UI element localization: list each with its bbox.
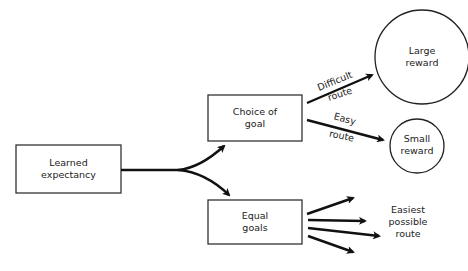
easiest-route-label-line1: Easiest bbox=[391, 204, 425, 215]
expectancy-diagram: Learned expectancy Choice of goal Diffic… bbox=[0, 0, 468, 271]
choice-of-goal-label-line2: goal bbox=[245, 118, 265, 129]
large-reward-label-line1: Large bbox=[409, 45, 436, 56]
small-reward-label-line2: reward bbox=[401, 145, 434, 156]
arrow-to-equal bbox=[178, 170, 229, 195]
choice-of-goal-node: Choice of goal bbox=[208, 95, 302, 141]
arrow-to-choice bbox=[178, 146, 224, 170]
fan-arrow-2 bbox=[308, 220, 365, 221]
easy-route-label-line2: route bbox=[328, 128, 355, 144]
easiest-route-label-line2: possible bbox=[389, 216, 428, 227]
large-reward-node: Large reward bbox=[375, 10, 468, 104]
small-reward-node: Small reward bbox=[390, 119, 444, 173]
small-reward-label-line1: Small bbox=[404, 133, 430, 144]
choice-of-goal-label-line1: Choice of bbox=[233, 106, 278, 117]
learned-expectancy-label-line1: Learned bbox=[49, 157, 87, 168]
easiest-route-label: Easiest possible route bbox=[389, 204, 428, 239]
equal-goals-label-line2: goals bbox=[242, 222, 267, 233]
branch-arrows bbox=[121, 146, 229, 195]
easy-route-label-line1: Easy bbox=[333, 110, 358, 127]
fan-arrow-1 bbox=[307, 198, 353, 214]
equal-goals-fan-arrows bbox=[307, 198, 379, 252]
easiest-route-label-line3: route bbox=[395, 228, 420, 239]
equal-goals-node: Equal goals bbox=[208, 200, 302, 244]
fan-arrow-4 bbox=[308, 236, 353, 252]
learned-expectancy-label-line2: expectancy bbox=[41, 169, 96, 180]
large-reward-label-line2: reward bbox=[406, 57, 439, 68]
fan-arrow-3 bbox=[308, 228, 379, 236]
equal-goals-label-line1: Equal bbox=[242, 210, 269, 221]
route-arrows: Difficult route Easy route bbox=[307, 69, 383, 144]
learned-expectancy-node: Learned expectancy bbox=[16, 145, 121, 193]
